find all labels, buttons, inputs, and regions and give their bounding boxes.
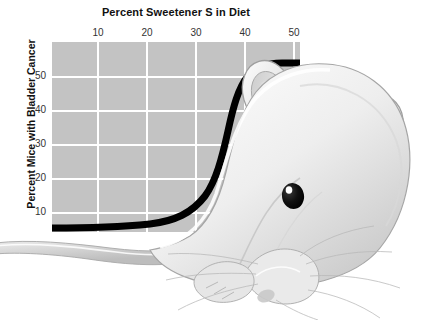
y-tick-label-2: 20 — [22, 172, 46, 183]
gridline-horizontal — [52, 76, 300, 78]
snout — [246, 249, 318, 305]
plot-area — [52, 42, 300, 232]
y-tick-label-4: 40 — [22, 104, 46, 115]
y-tick-label-3: 30 — [22, 138, 46, 149]
gridline-horizontal — [52, 178, 300, 180]
chart-title: Percent Sweetener S in Diet — [52, 6, 300, 18]
gridline-vertical — [293, 42, 295, 232]
front-paw — [194, 262, 254, 303]
x-tick-label-4: 40 — [230, 27, 260, 38]
gridline-vertical — [146, 42, 148, 232]
gridline-horizontal — [52, 212, 300, 214]
whiskers — [166, 226, 400, 320]
right-ear — [340, 88, 413, 172]
figure-canvas: Percent Sweetener S in Diet Percent Mice… — [0, 0, 422, 320]
x-tick-label-2: 20 — [132, 27, 162, 38]
x-tick-label-3: 30 — [181, 27, 211, 38]
x-tick-label-5: 50 — [279, 27, 309, 38]
y-tick-label-5: 50 — [22, 70, 46, 81]
x-tick-label-1: 10 — [83, 27, 113, 38]
y-axis-label: Percent Mice with Bladder Cancer — [25, 29, 37, 219]
gridline-vertical — [195, 42, 197, 232]
gridline-vertical — [97, 42, 99, 232]
gridline-vertical — [244, 42, 246, 232]
y-tick-label-1: 10 — [22, 206, 46, 217]
gridline-horizontal — [52, 110, 300, 112]
gridline-horizontal — [52, 144, 300, 146]
